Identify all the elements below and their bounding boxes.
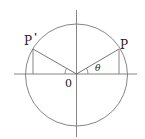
label-p: P	[120, 38, 128, 52]
label-theta: θ	[95, 63, 101, 73]
radius-op-prime	[33, 49, 77, 74]
label-origin: 0	[65, 77, 72, 90]
angle-arc-left	[65, 68, 67, 74]
label-p-prime-mark: '	[34, 31, 37, 42]
angle-arc-right	[87, 68, 89, 74]
unit-circle-diagram: P P ' 0 θ	[0, 0, 145, 139]
label-p-prime: P	[24, 34, 32, 48]
